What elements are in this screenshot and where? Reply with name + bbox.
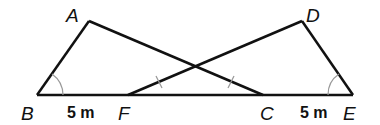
label-A: A	[65, 5, 79, 26]
angle-mark-B	[52, 74, 63, 95]
label-C: C	[260, 103, 274, 124]
label-E: E	[343, 103, 356, 124]
angle-mark-E	[328, 74, 339, 95]
label-B: B	[21, 103, 34, 124]
label-F: F	[118, 103, 131, 124]
segment-AB	[37, 21, 89, 95]
measurement-CE: 5 m	[300, 104, 328, 121]
segment-AC	[89, 21, 263, 95]
segment-FD	[128, 21, 302, 95]
segment-DE	[302, 21, 353, 95]
geometry-diagram: A B F C E D 5 m 5 m	[0, 0, 380, 125]
measurement-BF: 5 m	[67, 104, 95, 121]
label-D: D	[306, 5, 320, 26]
